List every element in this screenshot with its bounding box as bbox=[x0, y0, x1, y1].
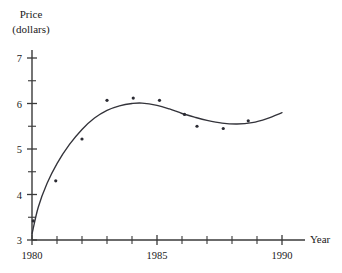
y-tick-label: 3 bbox=[17, 235, 22, 246]
x-tick-label: 1985 bbox=[147, 250, 168, 261]
scatter-point bbox=[247, 119, 250, 122]
x-tick-label: 1980 bbox=[22, 250, 43, 261]
y-tick-label: 4 bbox=[17, 190, 23, 201]
y-axis-title-line1: Price bbox=[20, 8, 43, 20]
scatter-point bbox=[183, 113, 186, 116]
scatter-point bbox=[195, 125, 198, 128]
axis-labels-layer: Price (dollars) Year bbox=[12, 8, 330, 245]
scatter-point bbox=[105, 99, 108, 102]
scatter-point bbox=[158, 99, 161, 102]
fitted-trend-curve bbox=[32, 103, 282, 234]
axes-layer: 34567198019851990 bbox=[17, 50, 305, 261]
y-axis-title-line2: (dollars) bbox=[12, 23, 50, 36]
y-tick-label: 7 bbox=[17, 53, 22, 64]
scatter-point bbox=[32, 219, 35, 222]
scatter-point bbox=[54, 179, 57, 182]
data-points-layer bbox=[32, 96, 250, 222]
scatter-point bbox=[80, 137, 83, 140]
x-axis-title: Year bbox=[310, 233, 331, 245]
y-tick-label: 5 bbox=[17, 144, 22, 155]
chart-canvas: 34567198019851990 Price (dollars) Year bbox=[0, 0, 342, 273]
x-tick-label: 1990 bbox=[272, 250, 293, 261]
scatter-point bbox=[132, 96, 135, 99]
scatter-point bbox=[222, 127, 225, 130]
y-tick-label: 6 bbox=[17, 99, 22, 110]
price-vs-year-chart: 34567198019851990 Price (dollars) Year bbox=[0, 0, 342, 273]
